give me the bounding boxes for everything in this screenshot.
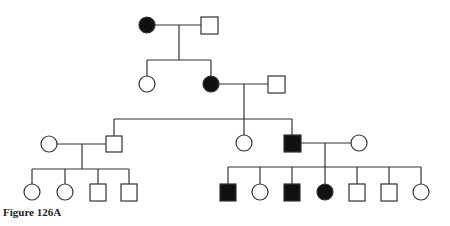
unaffected-female-IV-2 <box>57 184 73 200</box>
affected-female-II-2 <box>203 76 219 92</box>
pedigree-chart <box>0 0 450 226</box>
unaffected-male-IV-10 <box>381 184 397 201</box>
figure-caption: Figure 126A <box>3 206 61 218</box>
unaffected-female-III-5 <box>351 135 367 151</box>
unaffected-male-II-3 <box>268 76 285 93</box>
unaffected-female-II-1 <box>139 76 155 92</box>
connector-lines <box>32 25 421 184</box>
affected-female-IV-8 <box>317 184 333 200</box>
unaffected-male-IV-4 <box>121 184 137 201</box>
unaffected-female-IV-11 <box>413 184 429 200</box>
unaffected-female-III-3 <box>236 135 252 151</box>
individuals <box>24 17 429 201</box>
unaffected-female-IV-1 <box>24 184 40 200</box>
unaffected-male-I-2 <box>201 17 218 34</box>
unaffected-female-III-1 <box>41 136 57 152</box>
affected-female-I-1 <box>139 17 155 33</box>
unaffected-female-IV-6 <box>252 184 268 200</box>
affected-male-III-4 <box>284 135 301 152</box>
unaffected-male-IV-3 <box>90 184 106 201</box>
unaffected-male-III-2 <box>106 136 122 152</box>
unaffected-male-IV-9 <box>349 184 365 201</box>
affected-male-IV-5 <box>220 184 236 201</box>
affected-male-IV-7 <box>284 184 300 201</box>
